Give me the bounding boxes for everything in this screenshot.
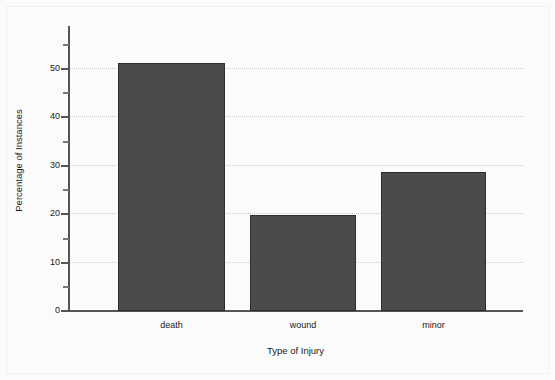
y-tick-major-40	[61, 116, 69, 118]
y-tick-minor-15	[63, 238, 69, 240]
bar-minor[interactable]	[381, 172, 486, 311]
bar-wound[interactable]	[250, 215, 356, 311]
y-tick-minor-25	[63, 189, 69, 191]
bar-chart-figure: 50 40 30 20 10 0 death wound minor Type …	[0, 0, 555, 380]
y-tick-major-10	[61, 262, 69, 264]
y-tick-label-0: 0	[14, 305, 60, 315]
y-tick-minor-45	[63, 92, 69, 94]
x-axis-title: Type of Injury	[68, 345, 523, 356]
bar-death[interactable]	[118, 63, 225, 311]
y-tick-major-0	[61, 310, 69, 312]
y-tick-minor-5	[63, 286, 69, 288]
y-tick-major-30	[61, 165, 69, 167]
y-tick-major-20	[61, 213, 69, 215]
y-axis-title: Percentage of Instances	[13, 86, 24, 236]
y-tick-minor-55	[63, 44, 69, 46]
y-tick-major-50	[61, 68, 69, 70]
x-tick-label-wound: wound	[250, 320, 356, 331]
y-tick-minor-35	[63, 141, 69, 143]
y-tick-label-50: 50	[14, 63, 60, 73]
x-tick-label-minor: minor	[381, 320, 486, 331]
x-tick-label-death: death	[118, 320, 225, 331]
y-tick-label-10: 10	[14, 257, 60, 267]
